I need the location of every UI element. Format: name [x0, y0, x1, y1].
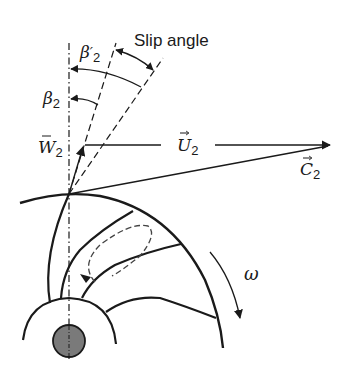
w2-vector — [69, 147, 83, 194]
flow-angle-line — [69, 58, 163, 194]
blade-4 — [106, 298, 216, 318]
beta2-label: β2 — [42, 88, 60, 111]
impeller-slip-diagram: Slip angle β′2 β2 W2 U2 C2 ω — [0, 0, 344, 370]
w2-label: W2 — [38, 137, 63, 160]
blade-2 — [61, 211, 133, 298]
beta2-prime-arc — [71, 69, 141, 87]
c2-label: C2 — [300, 159, 320, 182]
blade-3 — [82, 244, 181, 298]
beta2-arc — [71, 99, 98, 105]
blade-1 — [48, 194, 69, 303]
u2-label: U2 — [177, 135, 199, 158]
relative-eddy-arrowhead — [80, 274, 91, 283]
slip-angle-label: Slip angle — [134, 31, 209, 50]
slip-angle-arc — [116, 50, 153, 70]
beta2-prime-label: β′2 — [79, 42, 100, 65]
omega-label: ω — [244, 263, 259, 284]
